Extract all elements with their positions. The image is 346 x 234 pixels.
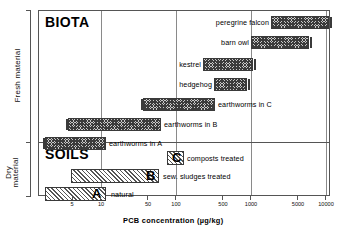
- figure-root: Fresh material Dry material BIOTA SOILS …: [0, 0, 346, 234]
- y-axis-fresh-bracket: [30, 10, 31, 142]
- bar-endtick-earthworms-in-b: [66, 119, 68, 130]
- bar-endtick-barn-owl: [310, 37, 312, 48]
- bar-earthworms-in-c: [143, 98, 215, 111]
- bar-label-kestrel: kestrel: [149, 61, 201, 68]
- x-tick-label-50: 50: [145, 201, 151, 207]
- x-tick-label-100: 100: [171, 201, 180, 207]
- x-tick-label-5000: 5000: [292, 201, 304, 207]
- bar-label-natural: natural: [111, 191, 171, 198]
- x-tick-label-1000: 1000: [245, 201, 257, 207]
- plot-area: BIOTA SOILS peregrine falcon barn owl ke…: [38, 10, 330, 196]
- x-tick-100: [175, 196, 176, 200]
- bar-badge-c: C: [172, 151, 181, 164]
- x-tick-5: [72, 196, 73, 200]
- y-axis-label-fresh-material: Fresh material: [13, 36, 22, 116]
- bar-label-hedgehog: hedgehog: [157, 81, 212, 88]
- bar-endtick-earthworms-in-c: [141, 99, 143, 110]
- x-tick-label-10: 10: [98, 201, 104, 207]
- x-tick-1000: [250, 196, 251, 200]
- x-tick-5000: [297, 196, 298, 200]
- bar-peregrine-falcon: [271, 16, 329, 29]
- bar-label-sew-sludges-treated: sew. sludges treated: [163, 173, 273, 180]
- x-tick-label-500: 500: [218, 201, 227, 207]
- bar-kestrel: [203, 58, 253, 71]
- gridline-10: [101, 11, 102, 195]
- bar-label-earthworms-in-b: earthworms in B: [164, 121, 244, 128]
- y-axis-tick-bottom: [26, 196, 31, 197]
- x-tick-10: [100, 196, 101, 200]
- bar-earthworms-in-b: [68, 118, 161, 131]
- bar-label-earthworms-in-a: earthworms in A: [109, 140, 189, 147]
- gridline-10000: [326, 11, 327, 195]
- x-axis-title: PCB concentration (µg/kg): [123, 216, 223, 225]
- bar-earthworms-in-a: [45, 137, 106, 150]
- bar-endtick-earthworms-in-a: [43, 138, 45, 149]
- bar-label-composts-treated: composts treated: [187, 155, 277, 162]
- bar-endtick-hedgehog: [248, 79, 250, 90]
- x-tick-label-5: 5: [70, 201, 73, 207]
- bar-endtick-peregrine-falcon: [330, 17, 332, 28]
- bar-label-peregrine-falcon: peregrine falcon: [191, 19, 269, 26]
- bar-barn-owl: [251, 36, 309, 49]
- x-tick-50: [147, 196, 148, 200]
- y-axis-dry-bracket: [30, 142, 31, 196]
- y-axis-tick-top: [26, 10, 31, 11]
- x-tick-500: [222, 196, 223, 200]
- x-tick-10000: [325, 196, 326, 200]
- bar-label-barn-owl: barn owl: [191, 39, 249, 46]
- bar-badge-b: B: [146, 169, 155, 182]
- y-axis-label-dry-material-line2: material: [11, 153, 20, 193]
- bar-endtick-kestrel: [254, 59, 256, 70]
- x-tick-label-10000: 10000: [318, 201, 334, 207]
- section-heading-biota: BIOTA: [45, 14, 90, 30]
- bar-hedgehog: [214, 78, 247, 91]
- bar-label-earthworms-in-c: earthworms in C: [218, 101, 298, 108]
